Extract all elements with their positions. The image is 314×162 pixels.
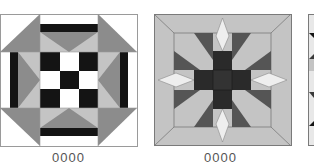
quilt-block-2 xyxy=(154,14,292,147)
cross-star-pattern xyxy=(154,14,292,147)
block-1-caption: 0000 xyxy=(52,151,85,162)
nine-patch-star-pattern xyxy=(0,14,138,147)
cropped-pattern xyxy=(308,14,314,147)
block-2-caption: 0000 xyxy=(204,151,237,162)
quilt-block-3 xyxy=(308,14,314,147)
quilt-block-1 xyxy=(0,14,138,147)
